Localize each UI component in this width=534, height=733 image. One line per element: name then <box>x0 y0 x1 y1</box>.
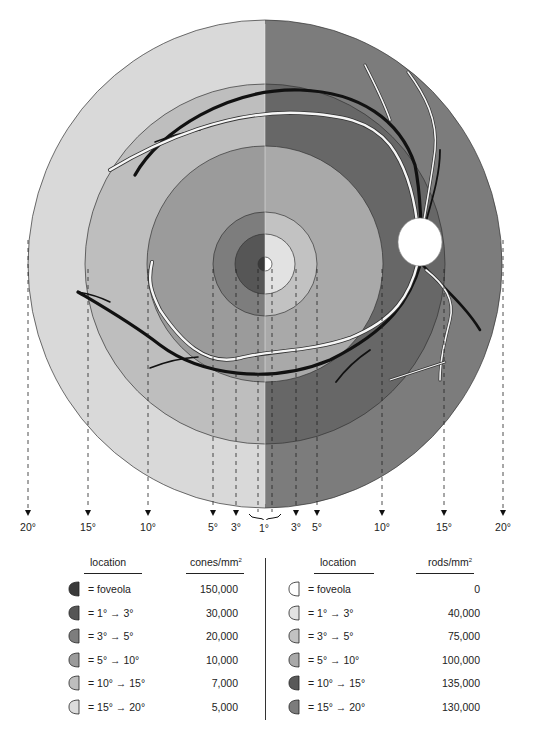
degree-label: 3° <box>231 521 241 533</box>
arrow-down-icon <box>314 510 320 516</box>
degree-label: 3° <box>291 521 301 533</box>
cones-location-header: location <box>90 556 126 568</box>
location-label: = 3° → 5° <box>88 630 133 642</box>
table-row: = 15° → 20°5,000 <box>68 698 308 718</box>
location-label: = foveola <box>88 583 131 595</box>
density-value: 100,000 <box>442 654 480 666</box>
table-divider <box>265 558 266 720</box>
half-circle-swatch-icon <box>288 652 300 668</box>
half-circle-swatch-icon <box>288 581 300 597</box>
density-value: 30,000 <box>206 607 238 619</box>
rods-value-underline <box>416 573 474 574</box>
half-circle-swatch-icon <box>288 675 300 691</box>
degree-label: 20° <box>495 521 511 533</box>
cones-value-underline <box>186 573 244 574</box>
degree-label: 15° <box>80 521 96 533</box>
half-circle-swatch-icon <box>68 699 80 715</box>
location-label: = 15° → 20° <box>88 701 145 713</box>
density-value: 7,000 <box>212 677 238 689</box>
degree-label: 1° <box>259 522 269 534</box>
density-value: 130,000 <box>442 701 480 713</box>
table-row: = 15° → 20°130,000 <box>288 698 528 718</box>
cones-location-underline <box>84 573 142 574</box>
arrow-down-icon <box>85 510 91 516</box>
location-label: = 15° → 20° <box>308 701 365 713</box>
half-circle-swatch-icon <box>68 581 80 597</box>
density-value: 5,000 <box>212 701 238 713</box>
location-label: = foveola <box>308 583 351 595</box>
location-label: = 5° → 10° <box>308 654 359 666</box>
density-value: 10,000 <box>206 654 238 666</box>
location-label: = 10° → 15° <box>88 677 145 689</box>
arrow-down-icon <box>210 510 216 516</box>
location-label: = 10° → 15° <box>308 677 365 689</box>
rods-value-header: rods/mm2 <box>428 556 472 568</box>
location-label: = 1° → 3° <box>308 607 353 619</box>
location-label: = 1° → 3° <box>88 607 133 619</box>
table-row: = 5° → 10°10,000 <box>68 651 308 671</box>
density-value: 0 <box>474 583 480 595</box>
rods-location-header: location <box>320 556 356 568</box>
half-circle-swatch-icon <box>68 628 80 644</box>
brace-icon <box>249 514 281 520</box>
half-circle-swatch-icon <box>68 605 80 621</box>
degree-label: 15° <box>436 521 452 533</box>
half-circle-swatch-icon <box>288 628 300 644</box>
half-circle-swatch-icon <box>288 605 300 621</box>
cones-value-header: cones/mm2 <box>190 556 242 568</box>
density-value: 40,000 <box>448 607 480 619</box>
table-row: = 1° → 3°30,000 <box>68 604 308 624</box>
arrow-down-icon <box>379 510 385 516</box>
location-label: = 5° → 10° <box>88 654 139 666</box>
table-row: = foveola0 <box>288 580 528 600</box>
retina-density-diagram <box>0 0 534 520</box>
degree-label: 10° <box>374 521 390 533</box>
arrow-down-icon <box>233 510 239 516</box>
table-row: = 3° → 5°75,000 <box>288 627 528 647</box>
degree-label: 5° <box>208 521 218 533</box>
density-value: 75,000 <box>448 630 480 642</box>
density-value: 135,000 <box>442 677 480 689</box>
table-row: = foveola150,000 <box>68 580 308 600</box>
density-value: 20,000 <box>206 630 238 642</box>
table-row: = 10° → 15°7,000 <box>68 674 308 694</box>
degree-label: 10° <box>140 521 156 533</box>
table-row: = 5° → 10°100,000 <box>288 651 528 671</box>
half-circle-swatch-icon <box>68 652 80 668</box>
table-row: = 3° → 5°20,000 <box>68 627 308 647</box>
half-circle-swatch-icon <box>288 699 300 715</box>
arrow-down-icon <box>145 510 151 516</box>
table-row: = 1° → 3°40,000 <box>288 604 528 624</box>
density-value: 150,000 <box>200 583 238 595</box>
degree-label: 5° <box>312 521 322 533</box>
rods-location-underline <box>314 573 374 574</box>
optic-disc <box>398 218 442 266</box>
arrow-down-icon <box>500 510 506 516</box>
arrow-down-icon <box>441 510 447 516</box>
half-circle-swatch-icon <box>68 675 80 691</box>
degree-label: 20° <box>20 521 36 533</box>
arrow-down-icon <box>25 510 31 516</box>
location-label: = 3° → 5° <box>308 630 353 642</box>
table-row: = 10° → 15°135,000 <box>288 674 528 694</box>
arrow-down-icon <box>293 510 299 516</box>
